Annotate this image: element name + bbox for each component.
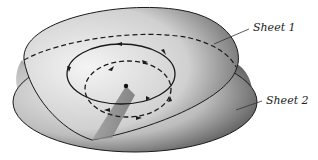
sheet-2-label: Sheet 2 [266, 94, 309, 107]
branch-point-dot [124, 84, 128, 88]
sheet-1-label: Sheet 1 [253, 21, 296, 34]
